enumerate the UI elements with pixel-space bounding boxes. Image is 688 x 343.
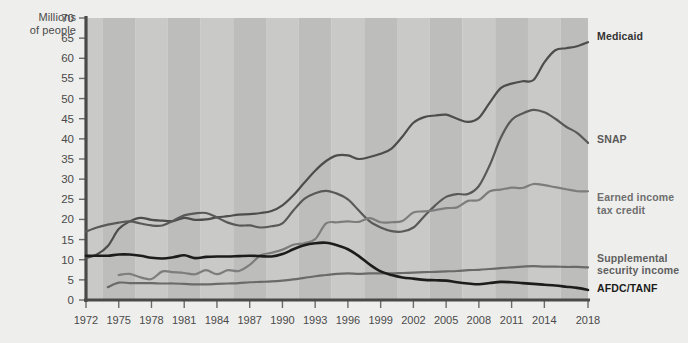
band: [430, 18, 463, 300]
legend-label-medicaid: Medicaid: [597, 30, 643, 43]
legend-label-snap: SNAP: [597, 133, 627, 146]
band: [495, 18, 528, 300]
band: [233, 18, 266, 300]
x-tick-label: 2014: [524, 314, 564, 326]
y-tick-label: 50: [48, 93, 74, 105]
band: [463, 18, 496, 300]
y-tick-label: 25: [48, 193, 74, 205]
band: [561, 18, 588, 300]
legend-label-earned-income: Earned income tax credit: [597, 191, 674, 216]
y-tick-label: 15: [48, 234, 74, 246]
band: [364, 18, 397, 300]
band: [397, 18, 430, 300]
y-tick-label: 70: [48, 12, 74, 24]
y-tick-label: 45: [48, 113, 74, 125]
y-tick-label: 5: [48, 274, 74, 286]
y-tick-label: 0: [48, 294, 74, 306]
welfare-program-enrollment-chart: Millions of people 051015202530354045505…: [0, 0, 688, 343]
plot-area: [0, 0, 688, 343]
y-tick-label: 30: [48, 173, 74, 185]
y-tick-label: 65: [48, 32, 74, 44]
y-tick-label: 60: [48, 52, 74, 64]
x-tick-label: 2018: [568, 314, 608, 326]
band: [102, 18, 135, 300]
y-tick-label: 40: [48, 133, 74, 145]
y-tick-label: 35: [48, 153, 74, 165]
legend-label-supplemental: Supplemental security income: [597, 252, 679, 277]
band: [528, 18, 561, 300]
y-tick-label: 20: [48, 213, 74, 225]
legend-label-afdc-tanf: AFDC/TANF: [597, 282, 658, 295]
band: [299, 18, 332, 300]
y-tick-label: 55: [48, 72, 74, 84]
y-tick-label: 10: [48, 254, 74, 266]
